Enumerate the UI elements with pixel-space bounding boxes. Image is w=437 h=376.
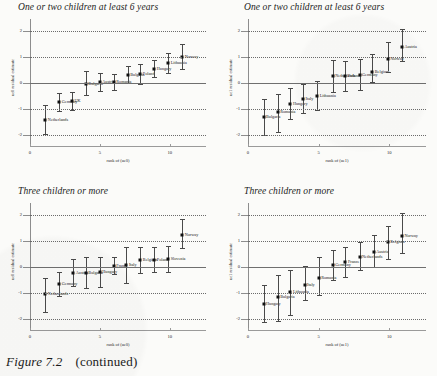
y-axis-label-wrap: ue0 residual estimate	[4, 25, 14, 143]
x-tick-label: 10	[167, 334, 172, 339]
y-tick-label: 1	[20, 55, 22, 60]
y-tick-label: 0	[20, 81, 22, 86]
panel-bottom-left: Three children or more ue0 residual esti…	[4, 186, 209, 349]
figure-caption: Figure 7.2(continued)	[6, 354, 138, 370]
y-tick: -2	[23, 135, 30, 136]
gridline	[30, 215, 206, 216]
error-bar-cap	[180, 69, 185, 70]
data-point-label: Bulgaria	[278, 295, 295, 299]
x-tick-label: 10	[167, 150, 172, 155]
gridline	[248, 135, 426, 136]
x-axis-label: rank of (ue0)	[30, 158, 206, 163]
gridline	[30, 293, 206, 294]
error-bar-cap	[138, 64, 143, 65]
x-tick-label: 5	[99, 150, 101, 155]
gridline	[248, 57, 426, 58]
x-tick-label: 0	[29, 334, 31, 339]
error-bar-cap	[98, 91, 103, 92]
y-tick: -2	[241, 319, 248, 320]
x-axis-label: rank of (ue0)	[30, 342, 206, 347]
zero-reference-line	[248, 83, 426, 84]
y-tick-label: -2	[18, 133, 22, 138]
error-bar-cap	[71, 286, 76, 287]
x-tick-label: 5	[317, 334, 319, 339]
y-tick: 2	[241, 215, 248, 216]
data-point-label: Poland	[140, 71, 154, 75]
data-point-label: Slovenia	[168, 257, 185, 261]
data-point-label: Romania	[278, 110, 296, 114]
error-bar-cap	[166, 73, 171, 74]
gridline	[248, 293, 426, 294]
zero-reference-line	[30, 83, 206, 84]
error-bar-cap	[112, 257, 117, 258]
x-axis-label: rank of (ue1)	[248, 342, 426, 347]
error-bar-cap	[112, 74, 117, 75]
panel-bottom-right: Three children or more ue1 residual esti…	[222, 186, 430, 349]
x-tick-label: 10	[387, 334, 392, 339]
panel-title: One or two children at least 6 years	[244, 2, 430, 12]
y-tick-label: 1	[238, 239, 240, 244]
data-point-label: Austria	[402, 45, 417, 49]
error-bar-cap	[343, 61, 348, 62]
y-tick: 2	[23, 215, 30, 216]
error-bar-cap	[138, 247, 143, 248]
error-bar-cap	[43, 105, 48, 106]
error-bar-cap	[343, 247, 348, 248]
data-point-label: Lithuania	[168, 60, 187, 64]
y-tick-label: 1	[20, 239, 22, 244]
error-bar-cap	[386, 72, 391, 73]
error-bar-cap	[386, 259, 391, 260]
error-bar-cap	[152, 60, 157, 61]
error-bar-cap	[400, 253, 405, 254]
error-bar-cap	[180, 44, 185, 45]
y-tick-label: -1	[18, 107, 22, 112]
gridline	[248, 319, 426, 320]
error-bar-cap	[166, 246, 171, 247]
gridline	[30, 135, 206, 136]
error-bar-cap	[166, 53, 171, 54]
x-axis-label: rank of (ue1)	[248, 158, 426, 163]
error-bar-cap	[57, 93, 62, 94]
y-tick: -2	[23, 319, 30, 320]
error-bar-cap	[276, 132, 281, 133]
y-axis-label-wrap: ue0 residual estimate	[4, 209, 14, 327]
error-bar-cap	[71, 259, 76, 260]
error-bar-cap	[358, 242, 363, 243]
error-bar-cap	[331, 250, 336, 251]
x-tick	[389, 144, 390, 147]
gridline	[248, 109, 426, 110]
y-axis-label: ue1 residual estimate	[228, 18, 233, 138]
error-bar-cap	[288, 119, 293, 120]
y-tick: 2	[241, 31, 248, 32]
gridline	[248, 241, 426, 242]
error-bar-cap	[276, 321, 281, 322]
error-bar-cap	[400, 61, 405, 62]
error-bar-cap	[331, 60, 336, 61]
error-bar-cap	[43, 312, 48, 313]
y-tick: 1	[23, 241, 30, 242]
zero-reference-line	[248, 267, 426, 268]
data-point-label: Hungary	[290, 101, 307, 105]
x-tick	[319, 328, 320, 331]
x-tick	[248, 144, 249, 147]
y-tick-label: 2	[20, 29, 22, 34]
error-bar-cap	[276, 275, 281, 276]
error-bar-cap	[262, 285, 267, 286]
figure-note: (continued)	[75, 354, 137, 369]
y-tick: -1	[23, 293, 30, 294]
y-axis-label: ue0 residual estimate	[10, 202, 15, 322]
error-bar-cap	[288, 88, 293, 89]
error-bar-cap	[152, 77, 157, 78]
figure-panel-grid: One or two children at least 6 years ue0…	[0, 0, 437, 344]
x-axis-line	[30, 330, 206, 331]
data-point-label: Norway	[402, 233, 418, 237]
error-bar-cap	[370, 54, 375, 55]
x-tick-label: 0	[247, 334, 249, 339]
gridline	[30, 319, 206, 320]
error-bar-cap	[124, 247, 129, 248]
y-tick: 0	[23, 83, 30, 84]
y-tick: 0	[241, 267, 248, 268]
error-bar-cap	[343, 91, 348, 92]
y-tick-label: 0	[238, 265, 240, 270]
y-tick: 0	[23, 267, 30, 268]
